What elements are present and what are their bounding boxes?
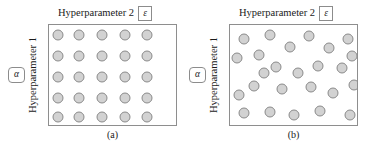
sample-point — [120, 72, 131, 83]
sample-point — [74, 51, 85, 62]
sample-point — [142, 51, 153, 62]
sample-point — [249, 81, 260, 92]
sample-point — [328, 88, 339, 99]
sample-point — [142, 72, 153, 83]
sample-point — [74, 112, 85, 123]
panel-b-caption: (b) — [229, 130, 358, 140]
panel-a-top-axis: Hyperparameter 2 ε — [58, 6, 152, 21]
sample-point — [97, 30, 108, 41]
panel-a-left-axis-label: Hyperparameter 1 — [28, 37, 39, 113]
sample-point — [345, 110, 356, 121]
sample-point — [289, 110, 300, 121]
panel-a-top-axis-symbol-box: ε — [138, 6, 152, 21]
sample-point — [97, 93, 108, 104]
sample-point — [277, 84, 288, 95]
sample-point — [53, 93, 64, 104]
panel-a-caption: (a) — [48, 130, 177, 140]
panel-b-plot-box — [229, 24, 358, 126]
sample-point — [53, 112, 64, 123]
panel-b-left-axis: α Hyperparameter 1 — [189, 24, 220, 126]
sample-point — [285, 42, 296, 53]
sample-point — [120, 93, 131, 104]
sample-point — [315, 106, 326, 117]
sample-point — [74, 72, 85, 83]
sample-point — [349, 80, 359, 91]
sample-point — [259, 68, 270, 79]
sample-point — [97, 51, 108, 62]
sample-point — [265, 107, 276, 118]
sample-point — [120, 112, 131, 123]
panel-b-top-axis: Hyperparameter 2 ε — [239, 6, 333, 21]
sample-point — [120, 30, 131, 41]
sample-point — [265, 30, 276, 41]
sample-point — [324, 43, 335, 54]
sample-point — [271, 62, 282, 73]
sample-point — [142, 93, 153, 104]
sample-point — [293, 68, 304, 79]
sample-point — [120, 51, 131, 62]
sample-point — [53, 72, 64, 83]
sample-point — [254, 50, 265, 61]
sample-point — [304, 31, 315, 42]
panel-a-plot-box — [48, 24, 177, 126]
sample-point — [239, 34, 250, 45]
panel-b-left-axis-label: Hyperparameter 1 — [209, 37, 220, 113]
panel-a-left-axis-symbol-box: α — [8, 67, 25, 83]
sample-point — [142, 30, 153, 41]
sample-point — [347, 51, 358, 62]
panel-b-left-axis-symbol-box: α — [189, 67, 206, 83]
sample-point — [343, 34, 354, 45]
sample-point — [97, 112, 108, 123]
sample-point — [53, 51, 64, 62]
panel-a-left-axis: α Hyperparameter 1 — [8, 24, 39, 126]
sample-point — [97, 72, 108, 83]
sample-point — [234, 90, 245, 101]
sample-point — [142, 112, 153, 123]
panel-b-top-axis-label: Hyperparameter 2 — [239, 8, 315, 19]
sample-point — [74, 93, 85, 104]
figure-grid-vs-random-search: Hyperparameter 2 ε α Hyperparameter 1 (a… — [0, 0, 369, 151]
sample-point — [239, 108, 250, 119]
panel-b-top-axis-symbol-box: ε — [319, 6, 333, 21]
sample-point — [306, 82, 317, 93]
sample-point — [313, 61, 324, 72]
sample-point — [232, 53, 243, 64]
panel-a-top-axis-label: Hyperparameter 2 — [58, 8, 134, 19]
sample-point — [337, 63, 348, 74]
sample-point — [74, 30, 85, 41]
sample-point — [53, 30, 64, 41]
